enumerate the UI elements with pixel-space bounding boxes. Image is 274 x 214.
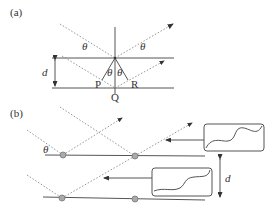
theta-label-incident: θ	[82, 40, 88, 52]
atom	[59, 195, 65, 201]
lower-atom-plane	[43, 197, 205, 200]
incident-ray-lower	[27, 175, 62, 198]
atom	[132, 196, 138, 202]
wave-icon	[154, 170, 210, 191]
wave-source-box-upper	[204, 124, 264, 151]
panel-a-label: (a)	[10, 6, 23, 19]
reflected-ray-lower	[62, 156, 135, 198]
reflected-ray-upper-left	[63, 118, 122, 155]
point-Q-label: Q	[111, 91, 119, 103]
atom	[60, 152, 66, 158]
upper-atom-plane	[45, 155, 205, 156]
theta-label-b: θ	[43, 143, 49, 155]
atom	[132, 153, 138, 159]
wave-icon	[206, 126, 262, 148]
panel-b-label: (b)	[10, 107, 23, 120]
theta-label-reflected: θ	[140, 40, 146, 52]
panel-b: (b) θ d	[10, 107, 264, 202]
wave-source-box-lower	[152, 168, 212, 196]
bragg-diffraction-diagram: (a) d θ θ θ θ P Q R (b)	[0, 0, 274, 214]
scatter-point	[114, 57, 116, 59]
theta-label-left: θ	[107, 66, 113, 78]
incident-ray-upper-right	[60, 107, 135, 156]
point-R-label: R	[131, 78, 139, 90]
theta-label-right: θ	[117, 66, 123, 78]
point-P-label: P	[95, 78, 101, 90]
d-label-b: d	[225, 172, 231, 184]
panel-a: (a) d θ θ θ θ P Q R	[10, 6, 174, 103]
d-label-a: d	[42, 66, 48, 78]
incident-ray-1	[60, 24, 115, 58]
